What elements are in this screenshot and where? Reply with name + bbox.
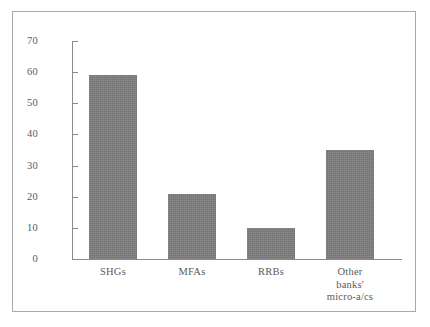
x-label-other-banks-micro-accounts: Other banks' micro-a/cs xyxy=(316,266,384,304)
y-tick-0: 0 xyxy=(40,259,80,260)
y-tick-label-50: 50 xyxy=(12,95,38,110)
chart-figure: 70 60 50 40 30 20 10 0 xyxy=(0,0,430,327)
x-axis-line xyxy=(72,259,402,260)
y-tick-mark-0 xyxy=(72,259,78,260)
y-tick-label-10: 10 xyxy=(12,220,38,235)
y-tick-40: 40 xyxy=(40,134,80,135)
x-label-other-line1: Other xyxy=(316,266,384,279)
y-tick-mark-50 xyxy=(72,103,78,104)
y-tick-mark-10 xyxy=(72,228,78,229)
y-tick-30: 30 xyxy=(40,166,80,167)
x-label-mfas-line1: MFAs xyxy=(162,266,222,279)
x-label-rrbs: RRBs xyxy=(241,266,301,279)
y-tick-mark-20 xyxy=(72,197,78,198)
y-tick-mark-40 xyxy=(72,134,78,135)
x-label-rrbs-line1: RRBs xyxy=(241,266,301,279)
x-label-mfas: MFAs xyxy=(162,266,222,279)
y-tick-mark-70 xyxy=(72,41,78,42)
y-tick-label-20: 20 xyxy=(12,189,38,204)
bar-rrbs xyxy=(247,228,295,259)
y-tick-mark-30 xyxy=(72,166,78,167)
x-label-other-line3: micro-a/cs xyxy=(316,291,384,304)
x-label-shgs: SHGs xyxy=(83,266,143,279)
y-tick-70: 70 xyxy=(40,41,80,42)
x-label-other-line2: banks' xyxy=(316,279,384,292)
y-tick-label-60: 60 xyxy=(12,64,38,79)
y-tick-mark-60 xyxy=(72,72,78,73)
bar-mfas xyxy=(168,194,216,259)
x-label-shgs-line1: SHGs xyxy=(83,266,143,279)
bar-shgs xyxy=(89,75,137,259)
y-tick-label-70: 70 xyxy=(12,33,38,48)
y-tick-10: 10 xyxy=(40,228,80,229)
y-tick-60: 60 xyxy=(40,72,80,73)
y-tick-20: 20 xyxy=(40,197,80,198)
bar-other-banks-micro-accounts xyxy=(326,150,374,259)
y-tick-label-40: 40 xyxy=(12,126,38,141)
y-tick-label-0: 0 xyxy=(12,251,38,266)
plot-area: 70 60 50 40 30 20 10 0 xyxy=(0,0,430,327)
y-tick-50: 50 xyxy=(40,103,80,104)
y-tick-label-30: 30 xyxy=(12,158,38,173)
